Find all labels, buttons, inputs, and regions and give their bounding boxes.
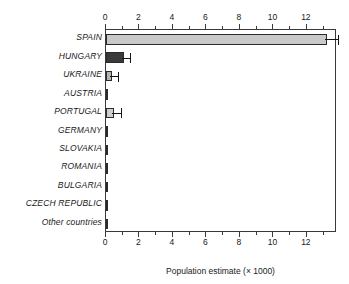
axis-tick-label: 2	[128, 238, 148, 247]
x-axis-title: Population estimate (× 1000)	[105, 266, 336, 276]
bottom-axis: 024681012	[0, 0, 349, 284]
axis-tick-label: 8	[229, 238, 249, 247]
axis-tick-label: 10	[262, 238, 282, 247]
axis-minor-tick	[256, 232, 257, 235]
axis-tick-label: 12	[296, 238, 316, 247]
axis-minor-tick	[155, 232, 156, 235]
axis-tick-label: 0	[95, 238, 115, 247]
axis-minor-tick	[122, 232, 123, 235]
axis-minor-tick	[189, 232, 190, 235]
axis-tick-label: 6	[195, 238, 215, 247]
bar-chart: 024681012 SPAINHUNGARYUKRAINEAUSTRIAPORT…	[0, 0, 349, 284]
axis-minor-tick	[289, 232, 290, 235]
axis-minor-tick	[222, 232, 223, 235]
axis-minor-tick	[323, 232, 324, 235]
axis-tick-label: 4	[162, 238, 182, 247]
